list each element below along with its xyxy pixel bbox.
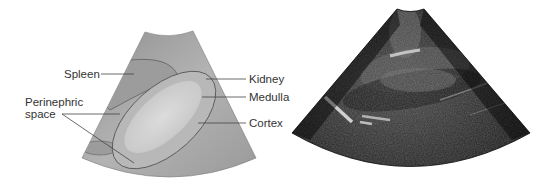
label-spleen: Spleen	[64, 68, 100, 80]
figure: Spleen Perinephric space Kidney Medulla …	[0, 0, 558, 191]
label-medulla: Medulla	[249, 91, 290, 103]
label-perinephric-line1: Perinephric	[25, 96, 83, 108]
label-perinephric-line2: space	[25, 108, 56, 120]
label-cortex: Cortex	[249, 117, 283, 129]
schematic-panel: Spleen Perinephric space Kidney Medulla …	[25, 31, 290, 187]
label-kidney: Kidney	[249, 73, 284, 85]
